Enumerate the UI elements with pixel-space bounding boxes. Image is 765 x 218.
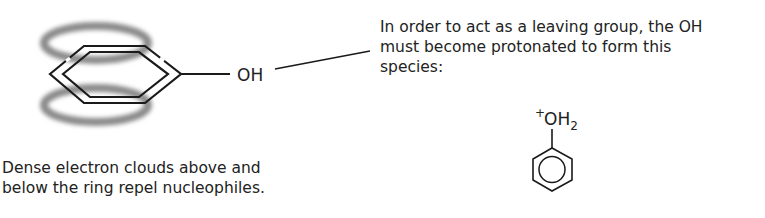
leaving-group-note: In order to act as a leaving group, the … [380, 17, 765, 77]
note-line: Dense electron clouds above and [2, 158, 342, 178]
electron-cloud-bottom [44, 88, 148, 122]
electron-cloud-top [44, 26, 148, 60]
note-line: In order to act as a leaving group, the … [380, 17, 765, 37]
aromatic-circle [539, 157, 565, 183]
note-line: species: [380, 57, 765, 77]
leader-line [275, 51, 370, 69]
electron-cloud-note: Dense electron clouds above and below th… [2, 158, 342, 198]
protonated-phenol: + OH2 [533, 106, 578, 191]
note-line: must become protonated to form this [380, 37, 765, 57]
oh2-label: OH2 [544, 109, 578, 133]
oh-label: OH [237, 65, 263, 85]
note-line: below the ring repel nucleophiles. [2, 178, 342, 198]
